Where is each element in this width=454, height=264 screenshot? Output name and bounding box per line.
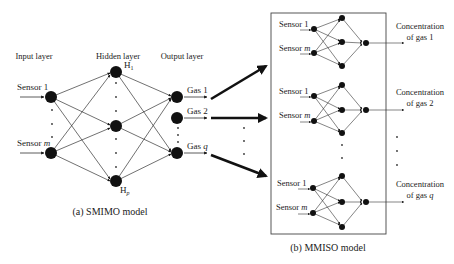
subnet-2-output-line2: of gas 2 [407,98,434,108]
output-ellipsis [177,127,179,143]
hidden-node-mid [110,120,122,132]
subnet-2-output-line1: Concentration [396,87,445,97]
output-label-gas-2: Gas 2 [187,106,208,116]
hidden-node-1 [110,66,122,78]
mmiso-model: Sensor 1 Sensor m Concentration of gas 1 [271,13,445,254]
input-hidden-connections [51,73,110,181]
input-label-sensor-m: Sensor m [17,138,51,148]
output-layer-label: Output layer [161,51,204,61]
smimo-caption: (a) SMIMO model [73,206,148,218]
subnet-q-input-m: Sensor m [276,202,307,212]
mmiso-caption: (b) MMISO model [290,242,366,254]
decomposition-arrows [211,66,266,176]
subnet-2-input-1: Sensor 1 [279,86,309,96]
input-node-m [45,147,57,159]
subnet-q-output-line2: of gas q [407,190,435,200]
subnet-q-input-1: Sensor 1 [277,178,307,188]
subnet-1-output-line2: of gas 1 [407,32,434,42]
mmiso-subnet-2: Sensor 1 Sensor m Concentration of gas 2 [279,82,445,136]
smimo-model: Input layer Hidden layer Output layer Se… [15,51,208,218]
subnet-1-input-m: Sensor m [279,43,310,53]
input-label-sensor-1: Sensor 1 [17,82,48,92]
smimo-mmiso-diagram: Input layer Hidden layer Output layer Se… [0,0,454,264]
output-node-gas-q [171,147,183,159]
output-node-gas-1 [171,91,183,103]
output-label-gas-q: Gas q [187,141,208,151]
hidden-label-h1: H1 [124,60,134,71]
hidden-label-hp: Hp [120,185,130,196]
hidden-output-connections [116,72,171,181]
hidden-layer-label: Hidden layer [96,51,140,61]
subnet-1-output-line1: Concentration [396,21,445,31]
subnet-1-input-1: Sensor 1 [279,19,309,29]
input-ellipsis [51,109,53,138]
mmiso-subnet-q: Sensor 1 Sensor m Concentration of gas q [276,173,445,230]
subnet-2-input-m: Sensor m [279,110,310,120]
input-layer-label: Input layer [15,51,52,61]
input-node-1 [45,91,57,103]
subnet-ellipsis [341,136,398,166]
mmiso-subnet-1: Sensor 1 Sensor m Concentration of gas 1 [279,15,445,69]
arrow-ellipsis [243,127,245,155]
subnet-q-output-line1: Concentration [396,179,445,189]
output-node-gas-2 [171,112,183,124]
output-label-gas-1: Gas 1 [187,85,208,95]
